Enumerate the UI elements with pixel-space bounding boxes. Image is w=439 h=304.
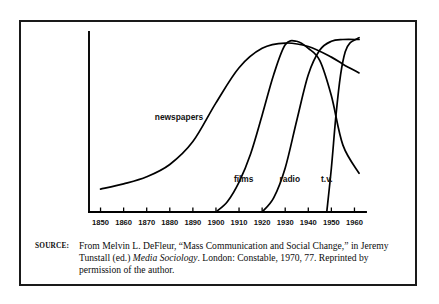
x-axis-tick-group: 1850186018701880189019001910192019301940…: [92, 208, 363, 228]
x-axis-tick-label: 1920: [254, 218, 271, 227]
figure-frame: 1850186018701880189019001910192019301940…: [19, 20, 417, 286]
caption-text: From Melvin L. DeFleur, “Mass Communicat…: [31, 240, 409, 277]
x-axis-tick-label: 1960: [346, 218, 363, 227]
x-axis-tick-label: 1930: [277, 218, 294, 227]
series-curve-tv: [327, 38, 359, 212]
series-curve-newspapers: [101, 43, 360, 189]
series-label-group: newspapersfilmsradiot.v.: [155, 112, 333, 184]
figure-caption: SOURCE: From Melvin L. DeFleur, “Mass Co…: [31, 240, 409, 277]
series-curve-group: [101, 38, 360, 212]
series-label-tv: t.v.: [321, 174, 332, 184]
series-label-films: films: [234, 174, 254, 184]
series-curve-films: [216, 41, 359, 212]
x-axis-tick-label: 1880: [161, 218, 178, 227]
x-axis-tick-label: 1910: [231, 218, 248, 227]
x-axis-tick-label: 1900: [208, 218, 225, 227]
x-axis-tick-label: 1850: [92, 218, 109, 227]
series-label-radio: radio: [280, 174, 300, 184]
x-axis-tick-label: 1870: [138, 218, 155, 227]
series-label-newspapers: newspapers: [155, 112, 204, 122]
source-label: SOURCE:: [35, 240, 69, 252]
caption-italic-title: Media Sociology: [133, 252, 198, 263]
x-axis-tick-label: 1950: [323, 218, 340, 227]
x-axis-tick-label: 1890: [184, 218, 201, 227]
chart-plot-area: 1850186018701880189019001910192019301940…: [21, 22, 419, 238]
x-axis-tick-label: 1860: [115, 218, 132, 227]
media-diffusion-line-chart: 1850186018701880189019001910192019301940…: [21, 22, 419, 238]
x-axis-tick-label: 1940: [300, 218, 317, 227]
